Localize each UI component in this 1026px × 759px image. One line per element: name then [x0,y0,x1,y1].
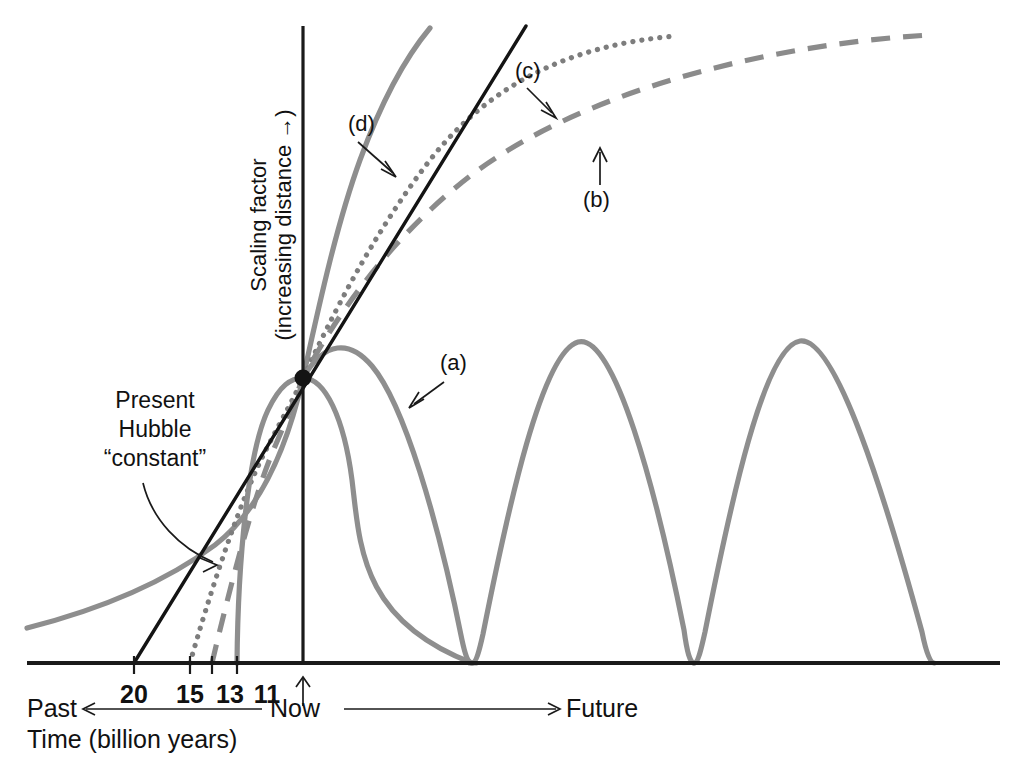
curve-label-c: (c) [515,58,541,83]
cosmology-expansion-chart: 20 15 13 11 Past Now Future Time (billio… [0,0,1026,759]
curve-label-b: (b) [583,187,610,212]
tick-label-13: 13 [216,680,244,708]
hubble-annotation-line3: “constant” [104,445,206,471]
chart-canvas: 20 15 13 11 Past Now Future Time (billio… [0,0,1026,759]
y-axis-label-line1: Scaling factor [246,158,271,291]
future-label: Future [566,694,638,722]
curve-label-a: (a) [440,350,467,375]
origin-marker-dot [295,370,312,387]
hubble-annotation-line1: Present [115,387,195,413]
tick-label-20: 20 [120,680,148,708]
past-label: Past [27,694,77,722]
curve-label-d: (d) [348,111,375,136]
hubble-annotation-line2: Hubble [119,416,192,442]
y-axis-label-line2: (increasing distance →) [271,109,296,340]
time-axis-caption: Time (billion years) [27,725,237,753]
chart-background [0,0,1026,759]
now-axis-label: Now [270,694,321,722]
tick-label-15: 15 [176,680,204,708]
